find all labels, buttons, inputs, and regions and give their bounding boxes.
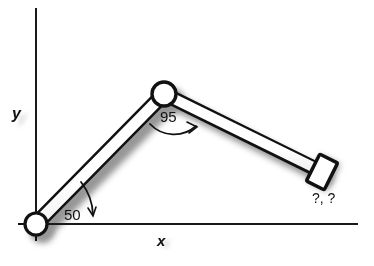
link-1 [36, 94, 164, 224]
angle-2-label: 95 [160, 108, 177, 125]
diagram-canvas: x y [0, 0, 374, 266]
angle-1-label: 50 [64, 206, 81, 223]
x-axis-label: x [157, 232, 165, 249]
elbow-joint [152, 82, 176, 106]
base-joint [25, 213, 47, 235]
link-1-fill [36, 94, 164, 224]
kinematics-diagram: x y [0, 0, 374, 266]
endpoint-label: ?, ? [312, 190, 335, 206]
y-axis-label: y [12, 105, 21, 123]
